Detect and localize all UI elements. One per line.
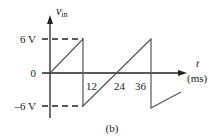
x-axis-unit: (ms)	[187, 72, 208, 85]
y-tick-6v: 6 V	[20, 33, 36, 45]
x-axis-arrow-icon	[178, 70, 187, 76]
y-axis-label: vin	[56, 4, 68, 19]
y-axis-arrow-icon	[47, 15, 53, 24]
x-tick-24: 24	[114, 80, 126, 92]
sawtooth-chart: 6 V 0 –6 V 12 24 36 vin t (ms) (b)	[0, 0, 222, 136]
y-tick-neg6v: –6 V	[14, 100, 37, 112]
x-tick-12: 12	[86, 80, 97, 92]
y-tick-0: 0	[31, 67, 37, 79]
figure-caption: (b)	[106, 122, 119, 135]
x-tick-36: 36	[135, 80, 147, 92]
y-axis-label-subscript: in	[61, 10, 67, 19]
x-axis-label: t	[196, 57, 200, 69]
